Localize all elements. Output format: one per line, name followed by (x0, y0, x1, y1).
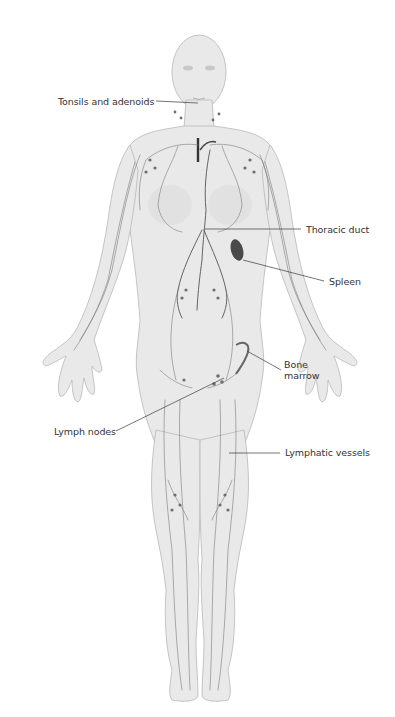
label-thoracic-duct: Thoracic duct (306, 224, 369, 235)
label-lymphatic-vessels: Lymphatic vessels (285, 447, 370, 458)
lymphatic-system-illustration (0, 0, 395, 717)
label-spleen: Spleen (329, 276, 361, 287)
label-lymph-nodes: Lymph nodes (54, 426, 116, 437)
label-tonsils-and-adenoids: Tonsils and adenoids (58, 96, 154, 107)
label-bone-marrow: Bone marrow (284, 359, 320, 381)
